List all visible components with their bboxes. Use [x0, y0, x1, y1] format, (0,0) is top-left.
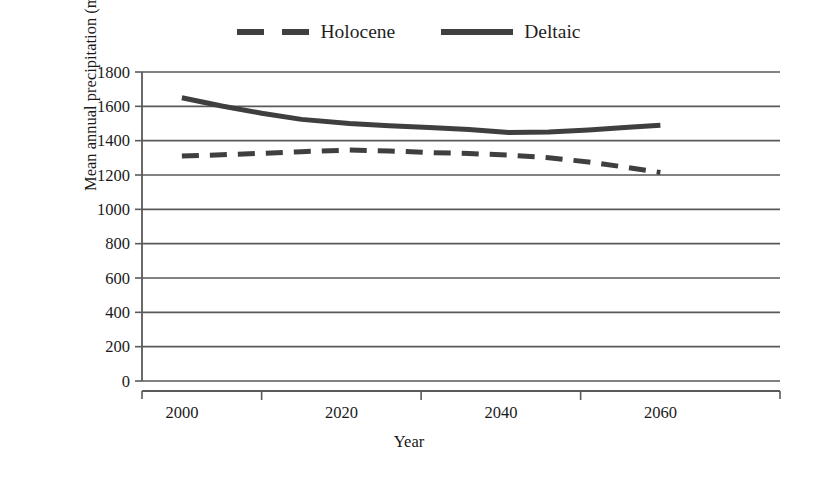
y-tick-label: 1800	[97, 63, 130, 82]
y-tick-label: 200	[105, 337, 130, 356]
y-tick-label: 400	[105, 303, 130, 322]
y-tick-label: 1200	[97, 166, 130, 185]
x-tick-label: 2040	[484, 403, 517, 422]
y-tick-label: 800	[105, 234, 130, 253]
y-axis-tick-labels: 020040060080010001200140016001800	[97, 63, 130, 391]
chart-figure: Holocene Deltaic Mean annual precipitati…	[0, 0, 818, 478]
x-axis	[142, 391, 780, 400]
gridlines	[135, 72, 780, 381]
y-tick-label: 1000	[97, 200, 130, 219]
series-line-deltaic	[182, 98, 661, 133]
series-line-holocene	[182, 150, 661, 172]
x-axis-tick-labels: 2000202020402060	[165, 403, 677, 422]
data-series	[182, 98, 661, 173]
x-tick-label: 2060	[644, 403, 677, 422]
y-tick-label: 1400	[97, 131, 130, 150]
y-tick-label: 1600	[97, 97, 130, 116]
x-tick-label: 2020	[325, 403, 358, 422]
x-tick-label: 2000	[165, 403, 198, 422]
y-tick-label: 600	[105, 269, 130, 288]
y-tick-label: 0	[122, 372, 130, 391]
plot-area: 020040060080010001200140016001800 200020…	[0, 0, 818, 478]
